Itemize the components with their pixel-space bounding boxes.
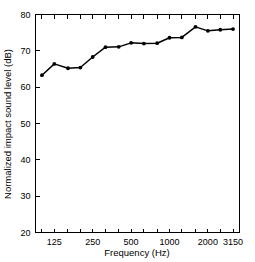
x-tick-label: 250: [85, 237, 100, 247]
x-tick-label: 500: [124, 237, 139, 247]
data-point: [142, 42, 146, 46]
x-tick-label: 2000: [198, 237, 218, 247]
y-tick-label: 70: [20, 46, 30, 56]
data-point: [194, 25, 198, 29]
x-tick-label: 1000: [159, 237, 179, 247]
y-tick-label: 20: [20, 228, 30, 238]
data-point: [168, 36, 172, 40]
y-tick-label: 80: [20, 10, 30, 20]
data-point: [104, 45, 108, 49]
figure-background: [0, 0, 255, 262]
data-point: [206, 29, 210, 33]
impact-sound-level-line-chart: 20304050607080 125250500100020003150 Fre…: [0, 0, 255, 262]
data-point: [129, 41, 133, 45]
y-tick-label: 40: [20, 155, 30, 165]
data-point: [117, 45, 121, 49]
x-axis-title: Frequency (Hz): [104, 247, 169, 258]
data-point: [91, 55, 95, 59]
chart-figure: 20304050607080 125250500100020003150 Fre…: [0, 0, 255, 262]
y-tick-label: 50: [20, 119, 30, 129]
data-point: [66, 66, 70, 70]
data-point: [40, 73, 44, 77]
data-point: [218, 28, 222, 32]
x-tick-label: 3150: [223, 237, 243, 247]
data-point: [231, 27, 235, 31]
y-tick-label: 30: [20, 191, 30, 201]
y-tick-label: 60: [20, 82, 30, 92]
data-point: [52, 62, 56, 66]
data-point: [155, 41, 159, 45]
x-tick-label: 125: [47, 237, 62, 247]
data-point: [180, 35, 184, 39]
y-axis-title: Normalized impact sound level (dB): [2, 49, 13, 199]
data-point: [78, 66, 82, 70]
